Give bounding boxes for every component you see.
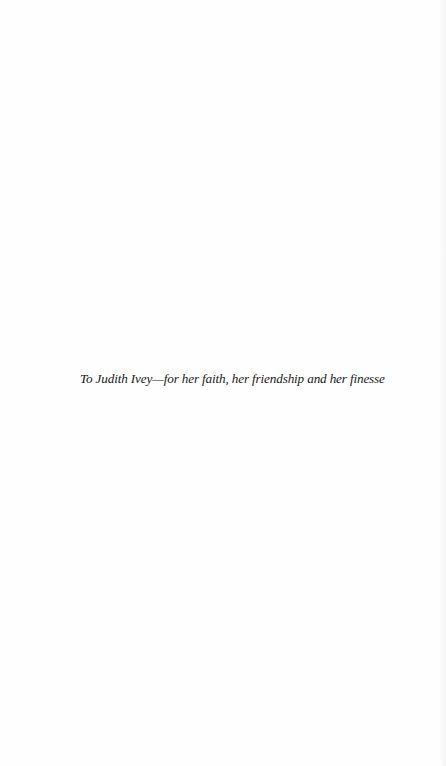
dedication-text: To Judith Ivey—for her faith, her friend… — [80, 370, 400, 388]
book-page: To Judith Ivey—for her faith, her friend… — [0, 0, 446, 766]
page-edge — [440, 0, 446, 766]
